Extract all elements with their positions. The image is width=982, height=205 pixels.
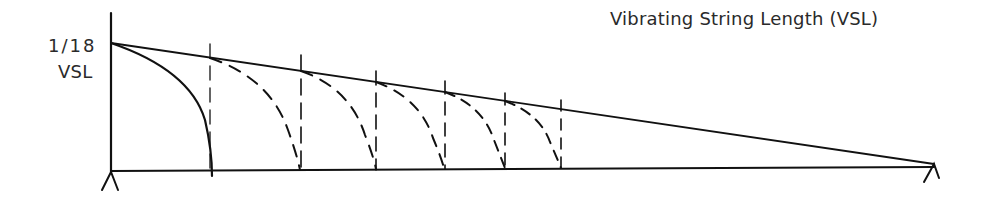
- fret-arc-6: [505, 101, 561, 168]
- diagram-canvas: [0, 0, 982, 205]
- string-baseline: [111, 167, 934, 171]
- fret-arc-5: [445, 92, 505, 168]
- y-axis-label-fraction: 1/18: [48, 35, 96, 56]
- first-fret-arc: [111, 43, 212, 176]
- diagram-title: Vibrating String Length (VSL): [610, 8, 878, 29]
- fret-arc-4: [376, 82, 444, 168]
- fret-arc-2: [210, 58, 300, 170]
- fret-arc-3: [301, 71, 376, 169]
- y-axis-label-unit: VSL: [58, 61, 92, 82]
- fret-spacing-diagram: Vibrating String Length (VSL) 1/18 VSL: [0, 0, 982, 205]
- taper-reference-line: [111, 43, 934, 164]
- nut-support-icon: [102, 172, 118, 190]
